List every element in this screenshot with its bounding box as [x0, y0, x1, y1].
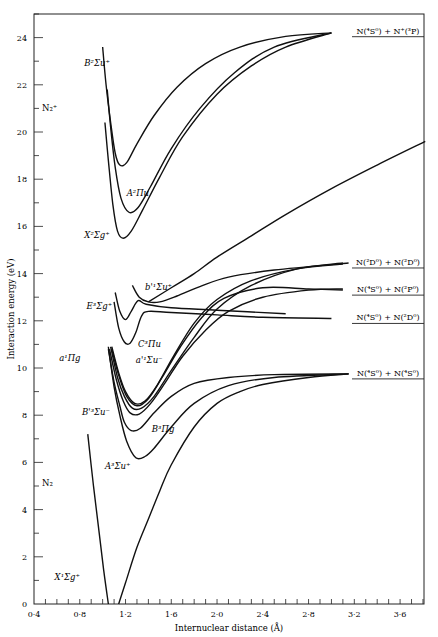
- state-label: b'¹Σu⁺: [145, 282, 172, 292]
- state-label: a'¹Σu⁻: [136, 355, 163, 365]
- y-tick-label: 6: [22, 458, 27, 467]
- potential-curve: [148, 141, 425, 301]
- state-label: X¹Σg⁺: [54, 572, 80, 582]
- dissociation-limit-label: N(⁴S⁰) + N(²P⁰): [357, 285, 419, 294]
- state-label: a¹Πg: [59, 353, 81, 363]
- y-tick-label: 14: [17, 270, 27, 279]
- state-label: C³Πu: [138, 339, 161, 349]
- state-label: B²Σu⁺: [83, 58, 110, 68]
- y-tick-label: 22: [17, 81, 27, 90]
- y-tick-label: 16: [17, 222, 27, 231]
- y-tick-label: 12: [17, 317, 27, 326]
- molecule-label: N₂: [42, 478, 53, 488]
- state-label: E³Σg⁺: [86, 301, 113, 311]
- y-tick-label: 18: [17, 175, 27, 184]
- y-axis-title: Interaction energy (eV): [6, 259, 16, 360]
- state-label: X²Σg⁺: [83, 230, 109, 240]
- y-axis-ticks: 024681012141618202224: [17, 14, 43, 609]
- dissociation-limit-label: N(⁴S⁰) + N(²D⁰): [357, 313, 420, 322]
- y-tick-label: 24: [17, 34, 27, 43]
- x-tick-label: 2·4: [256, 610, 269, 619]
- x-tick-label: 3·2: [348, 610, 361, 619]
- y-tick-label: 20: [17, 128, 27, 137]
- potential-curve: [110, 289, 343, 415]
- x-tick-label: 1·6: [165, 610, 178, 619]
- x-tick-label: 2·8: [302, 610, 315, 619]
- potential-curve: [88, 434, 109, 604]
- dissociation-limit-label: N(⁴S⁰) + N⁺(³P): [357, 27, 420, 36]
- molecule-label: N₂⁺: [42, 103, 57, 113]
- x-tick-label: 2·0: [211, 610, 224, 619]
- dissociation-limit-label: N(⁴S⁰) + N(⁴S⁰): [357, 369, 419, 378]
- y-tick-label: 0: [22, 600, 27, 609]
- x-axis-ticks: 0·40·81·21·62·02·42·83·23·6: [28, 599, 423, 619]
- y-tick-label: 8: [22, 411, 27, 420]
- state-label: A²Πu: [126, 188, 149, 198]
- y-tick-label: 10: [17, 364, 27, 373]
- state-label: B'³Σu⁻: [81, 407, 110, 417]
- x-tick-label: 1·2: [119, 610, 132, 619]
- potential-curve: [107, 33, 331, 213]
- x-tick-label: 3·6: [394, 610, 407, 619]
- x-tick-label: 0·8: [73, 610, 86, 619]
- potential-energy-chart: 0·40·81·21·62·02·42·83·23·6 024681012141…: [0, 0, 438, 637]
- x-axis-title: Internuclear distance (Å): [175, 622, 283, 633]
- potential-curve: [119, 374, 349, 604]
- y-tick-label: 2: [22, 553, 27, 562]
- state-label: B³Πg: [151, 424, 175, 434]
- y-tick-label: 4: [22, 506, 27, 515]
- dissociation-limit-label: N(²D⁰) + N(²D⁰): [356, 258, 420, 267]
- dissociation-limits: N(⁴S⁰) + N⁺(³P)N(²D⁰) + N(²D⁰)N(⁴S⁰) + N…: [352, 27, 424, 379]
- x-tick-label: 0·4: [28, 610, 41, 619]
- state-label: A³Σu⁺: [104, 461, 131, 471]
- potential-curve: [103, 33, 332, 166]
